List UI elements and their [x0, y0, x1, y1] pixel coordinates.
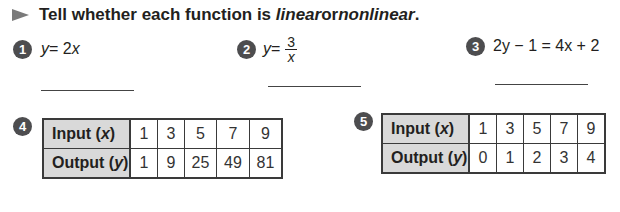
cell: 9	[158, 149, 185, 179]
table-row-input: Input (x) 1 3 5 7 9	[382, 114, 605, 144]
var-y: y	[41, 40, 49, 58]
problem-4-badge: 4	[13, 117, 32, 136]
cell: 7	[551, 114, 578, 144]
instruction-period: .	[415, 5, 420, 25]
cell: 3	[551, 144, 578, 174]
instruction-heading: Tell whether each function is linear or …	[12, 5, 419, 25]
instruction-text: Tell whether each function is	[39, 5, 271, 25]
cell: 1	[469, 114, 497, 144]
cell: 5	[524, 114, 551, 144]
cell: 0	[469, 144, 497, 174]
problem-3-answer-line[interactable]	[495, 84, 588, 85]
instruction-nonlinear: nonlinear	[338, 5, 415, 25]
label-close: )	[462, 149, 467, 166]
row-label-output: Output (y)	[43, 149, 130, 179]
fraction: 3 x	[285, 35, 297, 64]
cell: 1	[497, 144, 524, 174]
denominator: x	[288, 50, 295, 64]
problem-3-badge: 3	[466, 37, 485, 56]
problem-2-badge: 2	[237, 40, 256, 59]
arrow-bullet-icon	[12, 9, 29, 21]
eq-equals: =	[271, 40, 280, 58]
cell: 9	[578, 114, 606, 144]
problem-1-answer-line[interactable]	[41, 90, 134, 91]
cell: 1	[130, 119, 158, 149]
cell: 9	[250, 119, 283, 149]
label-text: Output (	[391, 149, 453, 166]
instruction-or: or	[321, 5, 338, 25]
instruction-linear: linear	[276, 5, 321, 25]
problem-1-equation: y = 2x	[41, 39, 80, 59]
label-text: Input (	[52, 125, 101, 142]
cell: 25	[185, 149, 217, 179]
label-close: )	[449, 120, 454, 137]
numerator: 3	[285, 35, 297, 50]
var-x: x	[72, 40, 80, 58]
row-label-output: Output (y)	[382, 144, 469, 174]
cell: 7	[217, 119, 250, 149]
label-text: Input (	[391, 120, 440, 137]
label-close: )	[123, 154, 128, 171]
table-row-output: Output (y) 0 1 2 3 4	[382, 144, 605, 174]
problem-5-badge: 5	[354, 112, 373, 131]
row-label-input: Input (x)	[382, 114, 469, 144]
cell: 81	[250, 149, 283, 179]
label-var: y	[453, 149, 462, 166]
problem-3-equation: 2y − 1 = 4x + 2	[493, 36, 599, 56]
problem-5-table: Input (x) 1 3 5 7 9 Output (y) 0 1 2 3 4	[381, 113, 606, 174]
label-var: y	[114, 154, 123, 171]
table-row-input: Input (x) 1 3 5 7 9	[43, 119, 282, 149]
cell: 3	[158, 119, 185, 149]
label-var: x	[101, 125, 110, 142]
problem-2-equation: y = 3 x	[263, 34, 297, 64]
eq-rest: = 2	[49, 40, 72, 58]
label-var: x	[440, 120, 449, 137]
cell: 4	[578, 144, 606, 174]
var-y: y	[263, 40, 271, 58]
label-close: )	[110, 125, 115, 142]
cell: 2	[524, 144, 551, 174]
table-row-output: Output (y) 1 9 25 49 81	[43, 149, 282, 179]
problem-4-table: Input (x) 1 3 5 7 9 Output (y) 1 9 25 49…	[42, 118, 283, 179]
cell: 5	[185, 119, 217, 149]
problem-2-answer-line[interactable]	[268, 86, 361, 87]
cell: 1	[130, 149, 158, 179]
row-label-input: Input (x)	[43, 119, 130, 149]
cell: 49	[217, 149, 250, 179]
label-text: Output (	[52, 154, 114, 171]
problem-1-badge: 1	[13, 40, 32, 59]
cell: 3	[497, 114, 524, 144]
